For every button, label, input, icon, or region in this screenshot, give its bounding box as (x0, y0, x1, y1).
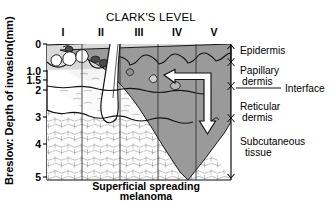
label-papillary-dermis-line1: Papillary (240, 65, 280, 76)
y-axis-title-text: Breslow: Depth of invasion(mm) (3, 16, 15, 185)
label-epidermis: Epidermis (240, 45, 285, 56)
label-reticular-dermis-line2: dermis (242, 112, 273, 123)
clark-level-I: I (62, 26, 65, 38)
y-tick-label-5: 5 (35, 171, 41, 183)
clark-level-II: II (98, 26, 104, 38)
interface-label: Interface (285, 83, 325, 94)
y-tick-label-3: 3 (35, 111, 41, 123)
y-tick-label-2: 2 (35, 84, 41, 96)
clark-level-V: V (210, 26, 217, 38)
y-tick-label-4: 4 (35, 138, 41, 150)
label-reticular-dermis-line1: Reticular (240, 101, 281, 112)
clark-level-IV: IV (172, 26, 182, 38)
clark-level-breslow-diagram: Breslow: Depth of invasion(mm) CLARK'S L… (0, 0, 335, 203)
chart-title: CLARK'S LEVEL (106, 11, 196, 23)
y-axis-title: Breslow: Depth of invasion(mm) (3, 16, 15, 185)
y-tick-label-0: 0 (35, 38, 41, 50)
label-subcutaneous-line1: Subcutaneous (240, 136, 305, 147)
caption-line-2: melanoma (120, 190, 173, 202)
label-subcutaneous-line2: tissue (245, 147, 272, 158)
clark-level-III: III (135, 26, 144, 38)
label-papillary-dermis-line2: dermis (242, 76, 273, 87)
